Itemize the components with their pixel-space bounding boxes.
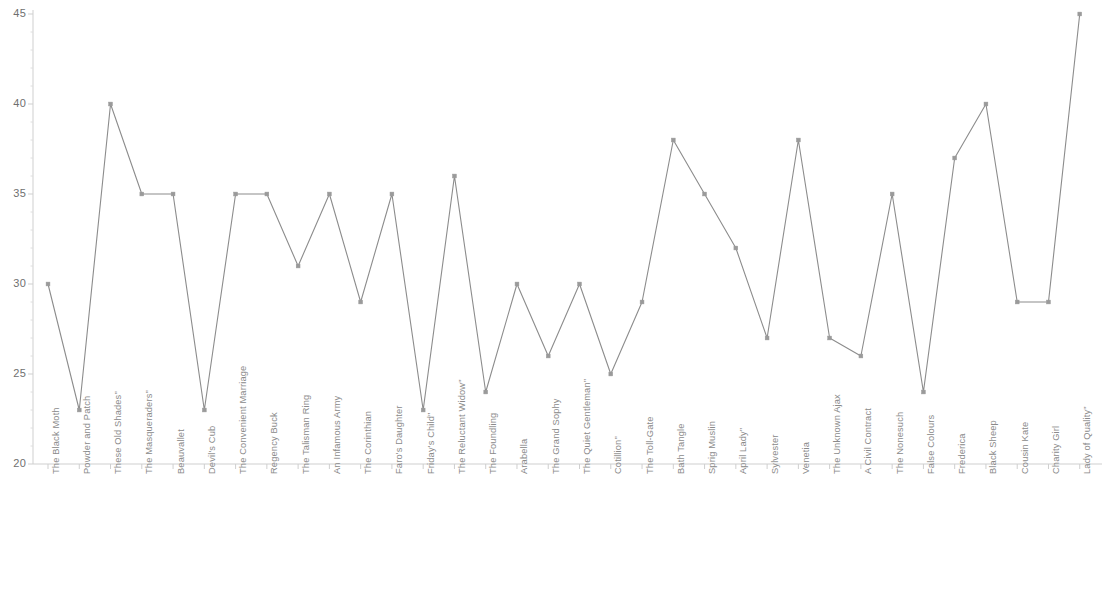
y-axis-tick-label: 40 [0, 98, 26, 109]
x-axis-tick-label: Black Sheep [989, 420, 998, 474]
data-point-marker [546, 354, 550, 358]
x-axis-tick-label: The Masqueraders" [145, 390, 154, 474]
x-axis-tick-label: Sprig Muslin [708, 421, 717, 474]
data-point-marker [765, 336, 769, 340]
data-point-marker [1078, 12, 1082, 16]
data-point-marker [453, 174, 457, 178]
x-axis-tick-label: Charity Girl [1052, 426, 1061, 474]
x-axis-tick-label: Frederica [958, 433, 967, 474]
x-axis-tick-label: The Reluctant Widow" [458, 379, 467, 474]
x-axis-tick-label: The Foundling [489, 413, 498, 474]
line-chart: 202530354045 The Black MothPowder and Pa… [0, 0, 1109, 591]
y-axis-tick-label: 35 [0, 188, 26, 199]
x-axis-tick-label: Bath Tangle [677, 423, 686, 474]
data-point-marker [796, 138, 800, 142]
plot-area [0, 0, 1109, 591]
x-axis-tick-label: Faro's Daughter [395, 405, 404, 474]
x-axis-tick-label: Sylvester [771, 434, 780, 474]
x-axis-tick-label: The Convenient Marriage [239, 366, 248, 474]
data-point-marker [202, 408, 206, 412]
data-point-marker [234, 192, 238, 196]
data-point-marker [140, 192, 144, 196]
data-point-marker [265, 192, 269, 196]
x-axis-tick-label: These Old Shades" [114, 391, 123, 474]
data-point-marker [890, 192, 894, 196]
y-axis-tick-label: 20 [0, 458, 26, 469]
series-line [48, 14, 1080, 410]
data-point-marker [859, 354, 863, 358]
x-axis-tick-label: Venetia [802, 442, 811, 474]
x-axis-tick-label: The Toll-Gate [646, 416, 655, 474]
x-axis-tick-label: The Unknown Ajax [833, 394, 842, 474]
data-series [46, 12, 1082, 412]
data-point-marker [484, 390, 488, 394]
data-point-marker [671, 138, 675, 142]
data-point-marker [296, 264, 300, 268]
data-point-marker [327, 192, 331, 196]
x-axis-tick-label: Devil's Cub [208, 426, 217, 474]
data-point-marker [515, 282, 519, 286]
data-point-marker [1047, 300, 1051, 304]
x-axis-tick-label: Lady of Quality" [1083, 406, 1092, 474]
data-point-marker [578, 282, 582, 286]
data-point-marker [46, 282, 50, 286]
axes [28, 10, 1102, 469]
x-axis-tick-label: Powder and Patch [83, 396, 92, 474]
x-axis-tick-label: The Corinthian [364, 411, 373, 474]
data-point-marker [1015, 300, 1019, 304]
y-axis-tick-label: 30 [0, 278, 26, 289]
data-point-marker [640, 300, 644, 304]
y-axis-tick-label: 25 [0, 368, 26, 379]
x-axis-tick-label: The Black Moth [52, 407, 61, 474]
x-axis-tick-label: An Infamous Army [333, 396, 342, 474]
data-point-marker [922, 390, 926, 394]
data-point-marker [77, 408, 81, 412]
x-axis-tick-label: The Grand Sophy [552, 398, 561, 474]
y-axis-tick-label: 45 [0, 8, 26, 19]
data-point-marker [984, 102, 988, 106]
x-axis-tick-label: April Lady" [739, 428, 748, 474]
x-axis-tick-label: The Nonesuch [896, 412, 905, 474]
x-axis-tick-label: False Colours [927, 415, 936, 474]
data-point-marker [703, 192, 707, 196]
x-axis-tick-label: Cousin Kate [1021, 422, 1030, 474]
x-axis-tick-label: The Quiet Gentleman" [583, 379, 592, 474]
data-point-marker [828, 336, 832, 340]
data-point-marker [109, 102, 113, 106]
x-axis-tick-label: The Talisman Ring [302, 395, 311, 474]
data-point-marker [171, 192, 175, 196]
x-axis-tick-label: Regency Buck [270, 412, 279, 474]
x-axis-tick-label: Arabella [520, 439, 529, 474]
x-axis-tick-label: Beauvallet [177, 429, 186, 474]
data-point-marker [609, 372, 613, 376]
data-point-marker [359, 300, 363, 304]
data-point-marker [953, 156, 957, 160]
data-point-marker [734, 246, 738, 250]
data-point-marker [421, 408, 425, 412]
x-axis-tick-label: A Civil Contract [864, 408, 873, 474]
data-point-marker [390, 192, 394, 196]
x-axis-tick-label: Cotillion" [614, 436, 623, 474]
x-axis-tick-label: Friday's Child" [427, 412, 436, 474]
